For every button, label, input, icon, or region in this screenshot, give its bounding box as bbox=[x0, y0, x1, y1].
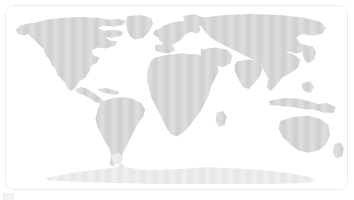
map-title: World Map bbox=[0, 0, 1, 1]
resize-handle[interactable] bbox=[3, 193, 14, 200]
map-panel[interactable] bbox=[5, 5, 348, 190]
world-map-canvas[interactable] bbox=[6, 6, 347, 189]
app-root: World Map bbox=[0, 0, 354, 200]
world-map-svg bbox=[6, 6, 347, 189]
